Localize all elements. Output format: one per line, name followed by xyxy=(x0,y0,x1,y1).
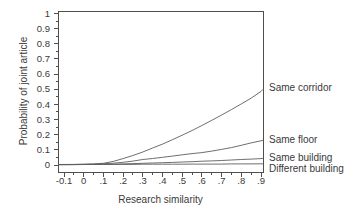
y-axis-tick-label: 0.8 xyxy=(37,38,50,49)
curve-end-labels: Same corridorSame floorSame buildingDiff… xyxy=(269,82,344,174)
y-axis-tick-label: 0.4 xyxy=(37,99,50,110)
y-axis-tick-label: 0.9 xyxy=(37,23,50,34)
x-axis-tick-label: .3 xyxy=(139,175,147,186)
y-axis-tick-label: 0.6 xyxy=(37,68,50,79)
curve-label-same-building: Same building xyxy=(269,152,332,163)
axis-ticks xyxy=(54,14,262,177)
x-axis-tick-label: .2 xyxy=(119,175,127,186)
y-axis-tick-label: 0.1 xyxy=(37,144,50,155)
y-axis-tick-label: 1 xyxy=(45,8,50,19)
x-axis-tick-label: .9 xyxy=(257,175,265,186)
scanned-line-chart-figure: -0.10.1.2.3.4.5.6.7.8.900.10.20.30.40.50… xyxy=(0,0,360,214)
y-axis-tick-label: 0.5 xyxy=(37,83,50,94)
y-axis-tick-label: 0.7 xyxy=(37,53,50,64)
x-axis-title: Research similarity xyxy=(118,194,202,205)
curve-same-floor xyxy=(58,140,263,165)
x-axis-tick-label: .7 xyxy=(218,175,226,186)
curve-label-same-floor: Same floor xyxy=(269,134,318,145)
x-axis-tick-label: -0.1 xyxy=(56,175,72,186)
x-axis-tick-label: .1 xyxy=(99,175,107,186)
y-axis-tick-label: 0.2 xyxy=(37,129,50,140)
x-axis-tick-label: .5 xyxy=(178,175,186,186)
y-axis-title: Probability of joint article xyxy=(18,36,29,145)
x-axis-tick-label: .8 xyxy=(237,175,245,186)
x-axis-tick-label: 0 xyxy=(81,175,86,186)
curve-same-corridor xyxy=(58,89,263,164)
curve-label-different-building: Different building xyxy=(269,163,344,174)
probability-vs-similarity-chart: -0.10.1.2.3.4.5.6.7.8.900.10.20.30.40.50… xyxy=(0,0,360,214)
data-curves xyxy=(58,89,263,164)
curve-label-same-corridor: Same corridor xyxy=(269,82,332,93)
axis-tick-labels: -0.10.1.2.3.4.5.6.7.8.900.10.20.30.40.50… xyxy=(37,8,265,186)
x-axis-tick-label: .6 xyxy=(198,175,206,186)
y-axis-tick-label: 0 xyxy=(45,159,50,170)
x-axis-tick-label: .4 xyxy=(159,175,167,186)
y-axis-tick-label: 0.3 xyxy=(37,114,50,125)
